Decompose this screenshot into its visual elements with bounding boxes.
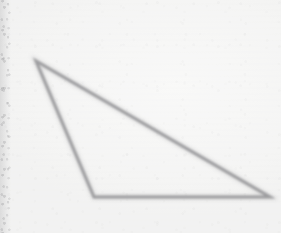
- triangle-svg: [0, 0, 281, 233]
- scanned-figure-canvas: [0, 0, 281, 233]
- triangle-outline: [36, 61, 270, 197]
- triangle-figure-layer: [0, 0, 281, 233]
